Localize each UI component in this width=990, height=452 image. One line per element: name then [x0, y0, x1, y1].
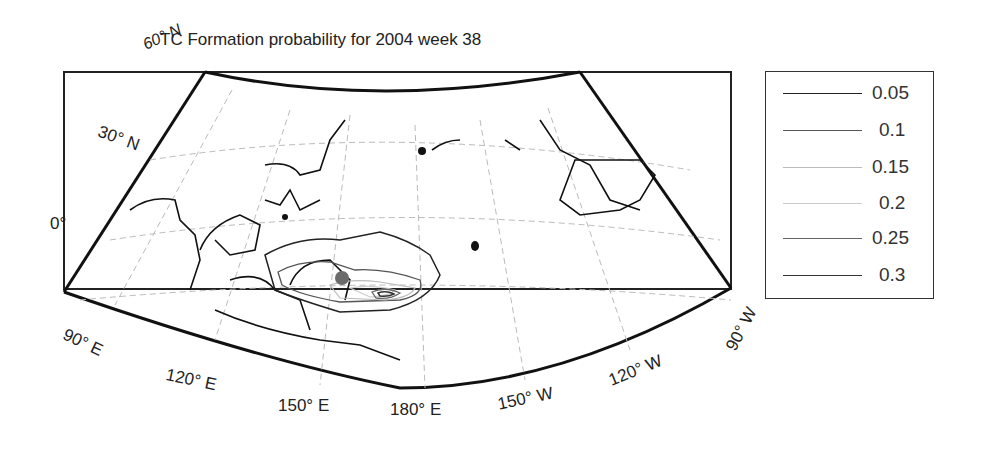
- legend-label: 0.2: [879, 192, 905, 214]
- contour-legend: 0.05 0.1 0.15 0.2 0.25 0.3: [765, 71, 934, 299]
- lon-label-180e: 180° E: [390, 400, 441, 420]
- legend-entry: 0.25: [766, 225, 933, 255]
- legend-line-swatch: [783, 93, 862, 94]
- probability-contours: [265, 232, 440, 312]
- lon-label-150e: 150° E: [278, 396, 329, 416]
- legend-line-swatch: [783, 167, 862, 168]
- island: [282, 214, 288, 220]
- graticule: [80, 90, 731, 388]
- legend-line-swatch: [783, 275, 862, 276]
- axes-frame: [64, 72, 731, 289]
- legend-entry: 0.15: [766, 154, 933, 184]
- island: [418, 147, 426, 155]
- legend-entry: 0.3: [766, 262, 933, 292]
- legend-label: 0.05: [872, 82, 909, 104]
- island: [471, 241, 479, 251]
- lat-label-0: 0°: [50, 214, 66, 234]
- legend-line-swatch: [783, 130, 862, 131]
- coastlines: [130, 120, 655, 360]
- legend-label: 0.3: [879, 264, 905, 286]
- legend-entry: 0.2: [766, 190, 933, 220]
- legend-line-swatch: [783, 238, 862, 239]
- legend-label: 0.15: [872, 156, 909, 178]
- legend-entry: 0.05: [766, 80, 933, 110]
- legend-line-swatch: [783, 203, 862, 204]
- legend-label: 0.1: [879, 119, 905, 141]
- formation-marker: [335, 271, 349, 285]
- legend-label: 0.25: [872, 227, 909, 249]
- legend-entry: 0.1: [766, 117, 933, 147]
- projection-boundary: [64, 72, 731, 388]
